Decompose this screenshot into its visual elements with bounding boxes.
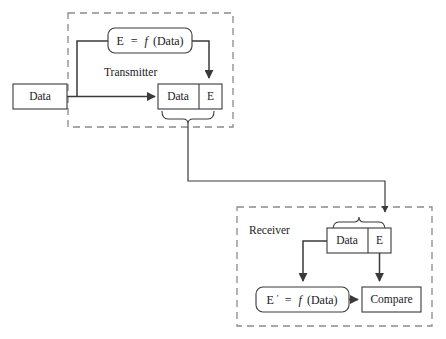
compare-label: Compare [370,293,412,306]
edge-formula-to-code-cell [192,41,209,78]
tx-packet-data-label: Data [167,90,189,102]
transmitter-region-label: Transmitter [104,66,157,78]
rx-packet-data-label: Data [336,234,358,246]
source-data-label: Data [29,90,51,102]
tx-packet-code-label: E [207,90,214,102]
tx-formula-label: E = f (Data) [116,34,183,48]
diagram-svg: Transmitter Receiver Data E = f (Data) D… [0,0,446,339]
receiver-region-label: Receiver [249,224,290,236]
tx-packet-brace [162,111,214,124]
diagram-canvas: Transmitter Receiver Data E = f (Data) D… [0,0,446,339]
edge-channel [188,124,385,212]
edge-rx-data-to-formula [303,241,327,281]
rx-packet-code-label: E [376,234,383,246]
